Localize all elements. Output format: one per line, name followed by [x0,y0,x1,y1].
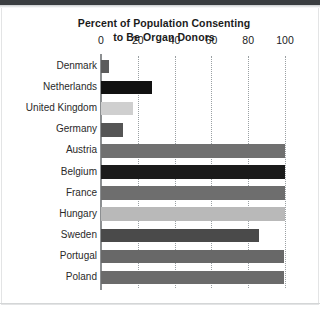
category-label-netherlands: Netherlands [1,81,97,92]
page-edge-fade [0,5,320,8]
bar-austria [101,144,285,158]
category-label-portugal: Portugal [1,250,97,261]
category-label-france: France [1,187,97,198]
category-label-denmark: Denmark [1,60,97,71]
x-tick-label: 40 [155,34,195,46]
bar-sweden [101,229,259,243]
bar-netherlands [101,81,152,95]
category-label-hungary: Hungary [1,208,97,219]
category-labels-column: DenmarkNetherlandsUnited KingdomGermanyA… [0,56,97,288]
bar-portugal [101,250,284,264]
x-tick-label: 0 [81,34,121,46]
gridline [285,56,287,288]
category-label-belgium: Belgium [1,166,97,177]
bar-hungary [101,207,285,221]
bar-germany [101,123,123,137]
x-tick-label: 80 [228,34,268,46]
category-label-austria: Austria [1,144,97,155]
bar-denmark [101,60,109,74]
bar-poland [101,271,284,285]
category-label-united-kingdom: United Kingdom [1,102,97,113]
x-tick-label: 20 [118,34,158,46]
category-label-germany: Germany [1,123,97,134]
category-label-sweden: Sweden [1,229,97,240]
category-label-poland: Poland [1,271,97,282]
x-tick-label: 60 [191,34,231,46]
x-tick-label: 100 [265,34,305,46]
organ-donor-bar-chart-figure: Percent of Population Consenting to Be O… [0,0,320,310]
chart-title-line-1: Percent of Population Consenting [30,17,298,31]
bar-france [101,186,285,200]
bar-belgium [101,165,285,179]
figure-bottom-rule [0,303,320,304]
bar-united-kingdom [101,102,133,116]
plot-area: 020406080100 [101,56,285,288]
